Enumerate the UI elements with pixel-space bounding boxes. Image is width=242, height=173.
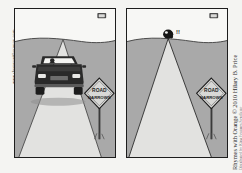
panel-one-headlight-right	[72, 74, 80, 78]
comic-panel-two: !! ROAD NARROWS	[126, 8, 228, 158]
syndicate-credit: Distributed by King Features Syndicate	[236, 2, 242, 170]
panel-one-distant-sign-icon	[97, 13, 106, 18]
panel-two-exclamation: !!	[176, 29, 180, 35]
panel-two-squeezed-car	[163, 30, 173, 39]
panel-one-license-plate	[50, 76, 68, 80]
panel-one-bumper	[35, 84, 84, 87]
panel-one-mirror-left	[32, 65, 36, 68]
panel-two-sign-text-line2: NARROWS	[200, 95, 223, 100]
panel-one-mirror-right	[82, 65, 86, 68]
panel-one-windshield	[43, 58, 74, 63]
comic-strip: www.rhymeswithorange.com	[0, 0, 242, 173]
panel-one-wheel-left	[36, 87, 45, 95]
panel-one-artwork: ROAD NARROWS	[15, 9, 115, 157]
panel-two-distant-sign-icon	[209, 13, 218, 18]
panel-one-headlight-left	[38, 74, 46, 78]
panel-two-artwork: !! ROAD NARROWS	[127, 9, 227, 157]
panel-one-car-shadow	[31, 98, 86, 106]
panel-two-sign-text-line1: ROAD	[204, 88, 219, 93]
comic-panel-one: ROAD NARROWS	[14, 8, 116, 158]
panel-one-sign-text-line1: ROAD	[92, 88, 107, 93]
panel-one-car-hood	[38, 67, 81, 71]
panel-one-wheel-right	[74, 87, 83, 95]
panel-one-sign-text-line2: NARROWS	[88, 95, 111, 100]
